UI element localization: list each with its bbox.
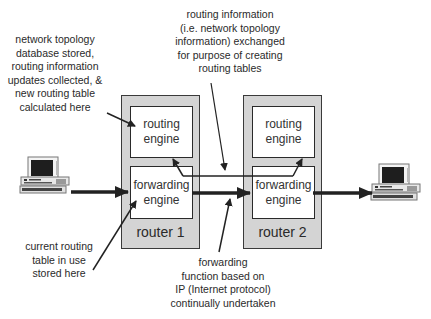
pointer-topology-to-routing-engine: [107, 113, 135, 126]
connector-overlay: [0, 0, 431, 319]
pointer-current-table-to-forwarding: [93, 201, 136, 270]
pointer-exchange-to-path: [211, 83, 225, 170]
routing-exchange-path: [173, 159, 302, 176]
pointer-forwarding-function-to-flow: [219, 199, 230, 252]
